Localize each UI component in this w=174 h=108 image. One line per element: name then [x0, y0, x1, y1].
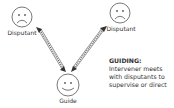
right-double-arrow-icon [71, 26, 107, 72]
disputant-right-label: Disputant [106, 26, 135, 32]
guiding-diagram [0, 0, 174, 108]
caption-line-1: Intervener meets [109, 65, 174, 73]
guiding-caption: GUIDING: Intervener meets with disputant… [109, 57, 174, 89]
caption-line-3: supervise or direct [109, 81, 174, 89]
guide-happy-face-icon [57, 74, 79, 96]
caption-line-2: with disputants to [109, 73, 174, 81]
disputant-left-label: Disputant [7, 30, 36, 36]
disputant-right-sad-face-icon [110, 3, 130, 23]
guide-label: Guide [59, 98, 77, 104]
left-double-arrow-icon [36, 27, 66, 72]
disputant-left-sad-face-icon [12, 7, 32, 27]
caption-title: GUIDING: [109, 57, 174, 65]
